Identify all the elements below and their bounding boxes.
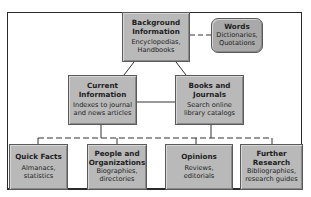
node-words: Words Dictionaries, Quotations bbox=[211, 18, 263, 53]
node-title: Current Information bbox=[69, 82, 136, 99]
node-subtitle: Indexes to journal and news articles bbox=[69, 102, 136, 118]
node-title: People and Organizations bbox=[88, 150, 146, 167]
node-current-information: Current Information Indexes to journal a… bbox=[68, 75, 137, 125]
node-subtitle: Encyclopedias, Handbooks bbox=[123, 39, 189, 55]
node-background-information: Background Information Encyclopedias, Ha… bbox=[122, 12, 190, 62]
edge-background-current bbox=[124, 62, 134, 75]
node-title: Background Information bbox=[123, 19, 189, 36]
node-subtitle: Dictionaries, Quotations bbox=[212, 32, 262, 48]
node-title: Quick Facts bbox=[15, 153, 62, 162]
node-subtitle: Biographies, directories bbox=[88, 168, 146, 184]
node-opinions: Opinions Reviews, editorials bbox=[165, 144, 233, 190]
node-books-and-journals: Books and Journals Search online library… bbox=[175, 75, 244, 125]
node-title: Opinions bbox=[181, 153, 217, 162]
node-subtitle: Almanacs, statistics bbox=[19, 165, 59, 181]
node-title: Further Research bbox=[252, 150, 292, 167]
node-subtitle: Bibliographies, research guides bbox=[241, 168, 302, 184]
node-further-research: Further Research Bibliographies, researc… bbox=[240, 144, 303, 190]
node-quick-facts: Quick Facts Almanacs, statistics bbox=[9, 144, 68, 190]
node-title: Words bbox=[224, 23, 250, 32]
node-title: Books and Journals bbox=[186, 82, 234, 99]
edge-background-books bbox=[176, 62, 186, 75]
node-people-and-organizations: People and Organizations Biographies, di… bbox=[87, 144, 147, 190]
node-subtitle: Reviews, editorials bbox=[179, 165, 219, 181]
node-subtitle: Search online library catalogs bbox=[176, 102, 243, 118]
